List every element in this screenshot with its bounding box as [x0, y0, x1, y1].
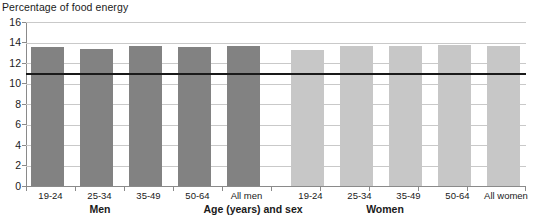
y-tick-label-6: 6: [5, 119, 21, 130]
bar-men-35-49: [129, 46, 162, 186]
y-tick-label-10: 10: [5, 78, 21, 89]
plot-area: [26, 22, 526, 186]
bar-men-50-64: [178, 47, 211, 186]
y-tick-label-4: 4: [5, 140, 21, 151]
y-tick-label-12: 12: [5, 58, 21, 69]
bar-women-35-49: [389, 46, 422, 186]
bar-men-25-34: [80, 49, 113, 186]
reference-line-11-percent: [26, 73, 526, 75]
bar-men-all: [227, 46, 260, 186]
y-axis-labels: 16 14 12 10 8 6 4 2 0: [0, 0, 21, 221]
bar-men-19-24: [31, 47, 64, 186]
gridline-16: [26, 22, 526, 23]
y-tick-label-2: 2: [5, 160, 21, 171]
bar-women-all: [487, 46, 520, 186]
bar-women-19-24: [291, 50, 324, 186]
x-axis-title: Age (years) and sex: [188, 203, 318, 215]
y-tick-label-16: 16: [5, 17, 21, 28]
x-label-men-all: All men: [218, 190, 275, 201]
gridline-14: [26, 43, 526, 44]
y-tick-label-14: 14: [5, 37, 21, 48]
y-tick-label-8: 8: [5, 99, 21, 110]
group-label-men: Men: [55, 203, 145, 215]
y-tick-label-0: 0: [5, 181, 21, 192]
gridline-0: [26, 186, 526, 187]
group-label-women: Women: [340, 203, 430, 215]
bar-women-50-64: [438, 45, 471, 187]
x-label-women-all: All women: [476, 190, 536, 201]
bar-women-25-34: [340, 46, 373, 186]
bar-chart: Percentage of food energy 16 14 12 10 8 …: [0, 0, 536, 221]
